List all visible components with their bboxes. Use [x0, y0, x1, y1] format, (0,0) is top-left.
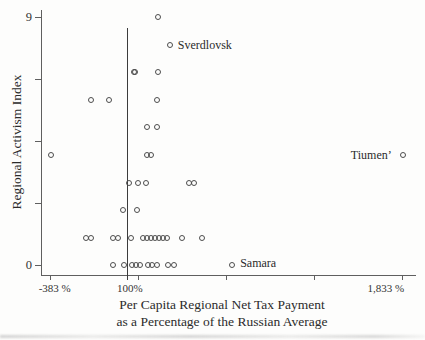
data-point — [144, 124, 150, 130]
data-point — [148, 152, 154, 158]
data-point — [106, 97, 112, 103]
data-point — [400, 152, 406, 158]
y-tick — [35, 141, 41, 142]
y-tick-label: 0 — [4, 258, 32, 272]
point-label-tiumen: Tiumen’ — [272, 148, 392, 162]
data-point — [155, 69, 161, 75]
data-point — [120, 207, 126, 213]
data-point — [154, 97, 160, 103]
data-point — [110, 262, 116, 268]
data-point — [154, 262, 160, 268]
x-axis-title-line-1: Per Capita Regional Net Tax Payment — [119, 297, 324, 313]
data-point — [179, 235, 185, 241]
x-tick — [402, 275, 403, 280]
data-point — [134, 207, 140, 213]
data-point — [191, 180, 197, 186]
data-point — [143, 180, 149, 186]
y-tick — [35, 265, 41, 266]
y-tick — [35, 17, 41, 18]
data-point — [135, 180, 141, 186]
data-point — [128, 235, 134, 241]
point-label-sverdlovsk: Sverdlovsk — [178, 37, 232, 51]
data-point — [48, 152, 54, 158]
data-point — [88, 235, 94, 241]
data-point — [164, 235, 170, 241]
reference-line-label: 100% — [117, 282, 143, 295]
reference-line — [127, 28, 129, 280]
x-tick-label: 1,833 % — [367, 282, 404, 295]
x-axis-title-line-2: as a Percentage of the Russian Average — [116, 314, 327, 330]
data-point — [115, 235, 121, 241]
data-point — [132, 69, 138, 75]
y-tick — [35, 79, 41, 80]
y-axis-line — [41, 10, 42, 275]
data-point — [137, 262, 143, 268]
data-point — [126, 180, 132, 186]
point-label-samara: Samara — [240, 256, 276, 270]
y-tick — [35, 203, 41, 204]
scan-artifact-band — [0, 335, 425, 338]
x-tick-label: -383 % — [39, 282, 71, 295]
data-point — [88, 97, 94, 103]
y-axis-title: Regional Activism Index — [8, 22, 26, 262]
x-tick — [138, 275, 139, 280]
scatter-figure: Regional Activism Index -383 %1,833 %091… — [0, 0, 425, 340]
data-point — [154, 124, 160, 130]
x-tick — [226, 275, 227, 280]
data-point — [167, 42, 173, 48]
data-point — [171, 262, 177, 268]
data-point — [155, 14, 161, 20]
x-tick — [50, 275, 51, 280]
x-tick — [314, 275, 315, 280]
data-point — [229, 262, 235, 268]
data-point — [199, 235, 205, 241]
x-axis-line — [41, 275, 416, 276]
y-tick-label: 9 — [4, 10, 32, 24]
